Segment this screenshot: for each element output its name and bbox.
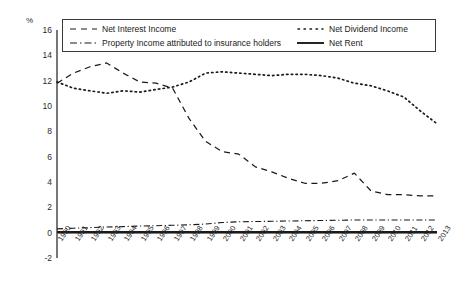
x-axis-tick: 1995 <box>139 224 156 243</box>
x-axis-tick: 2003 <box>271 224 288 243</box>
chart-legend: Net Interest Income Property Income attr… <box>62 19 436 52</box>
x-axis-tick: 2007 <box>337 224 354 243</box>
x-axis-tick: 1991 <box>73 224 90 243</box>
x-axis-tick: 2012 <box>419 224 436 243</box>
legend-item-net-rent: Net Rent <box>297 38 363 48</box>
x-axis-tick: 2010 <box>386 224 403 243</box>
legend-swatch-dashed-icon <box>70 25 97 33</box>
legend-label: Net Interest Income <box>102 24 176 34</box>
x-axis-tick: 2001 <box>238 224 255 243</box>
legend-swatch-dash-dot-icon <box>70 39 97 47</box>
legend-label: Net Dividend Income <box>329 24 408 34</box>
x-axis-tick: 2000 <box>221 224 238 243</box>
legend-label: Property Income attributed to insurance … <box>102 38 281 48</box>
x-axis-tick: 2011 <box>403 224 419 242</box>
x-axis-tick: 1998 <box>188 224 205 243</box>
x-axis-tick: 2013 <box>436 224 453 243</box>
legend-swatch-solid-icon <box>297 39 324 47</box>
x-axis-tick: 1992 <box>89 224 106 243</box>
x-axis-tick: 1994 <box>122 224 139 243</box>
legend-label: Net Rent <box>329 38 363 48</box>
x-axis-tick: 2005 <box>304 224 321 243</box>
x-axis-tick: 1993 <box>106 224 123 243</box>
x-axis-tick: 2002 <box>254 224 271 243</box>
x-axis-tick: 1997 <box>172 224 189 243</box>
x-axis-tick: 2009 <box>370 224 387 243</box>
legend-swatch-dotted-icon <box>297 25 324 33</box>
x-axis-tick: 1996 <box>155 224 172 243</box>
legend-item-net-interest-income: Net Interest Income <box>70 24 176 34</box>
x-axis-tick: 2008 <box>353 224 370 243</box>
x-axis-tick: 1990 <box>56 224 73 243</box>
x-axis-tick: 1999 <box>205 224 222 243</box>
legend-item-net-dividend-income: Net Dividend Income <box>297 24 408 34</box>
x-axis-tick: 2004 <box>287 224 304 243</box>
legend-item-property-income: Property Income attributed to insurance … <box>70 38 281 48</box>
x-axis-tick: 2006 <box>320 224 337 243</box>
